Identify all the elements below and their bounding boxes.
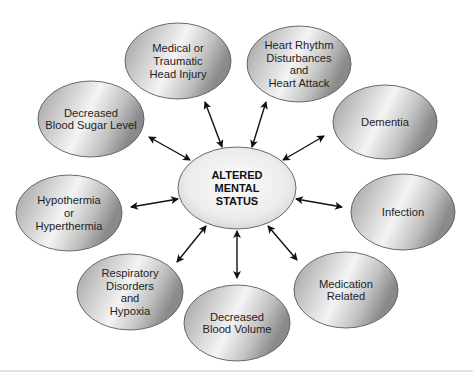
label-line: or — [64, 207, 74, 219]
label-line: Related — [327, 290, 366, 302]
node-medication-related: MedicationRelated — [294, 252, 398, 328]
label-line: Medication — [319, 278, 373, 290]
node-heart-rhythm: Heart RhythmDisturbancesandHeart Attack — [247, 26, 351, 102]
label-line: Blood Sugar Level — [45, 119, 136, 131]
double-arrow-respiratory-hypoxia — [177, 226, 206, 262]
label-line: Heart Rhythm — [264, 39, 333, 51]
label-line: Traumatic — [153, 55, 203, 67]
double-arrow-medication-related — [268, 226, 297, 260]
label-line: Hyperthermia — [35, 220, 103, 232]
node-label: Medical orTraumaticHead Injury — [149, 42, 207, 79]
node-respiratory-hypoxia: RespiratoryDisordersandHypoxia — [77, 254, 183, 330]
label-line: Medical or — [152, 42, 204, 54]
label-line: Hypothermia — [37, 194, 101, 206]
label-line: Disturbances — [266, 52, 332, 64]
label-line: Decreased — [64, 107, 118, 119]
double-arrow-heart-rhythm — [252, 102, 266, 147]
node-label: Infection — [382, 206, 424, 218]
double-arrow-infection — [296, 199, 342, 207]
center-label: ALTEREDMENTALSTATUS — [211, 169, 262, 206]
label-line: STATUS — [216, 195, 258, 207]
node-decreased-blood-sugar: DecreasedBlood Sugar Level — [38, 81, 144, 157]
label-line: Head Injury — [149, 68, 207, 80]
double-arrow-dementia — [283, 136, 324, 160]
double-arrow-medical-head-injury — [205, 102, 222, 147]
label-line: Disorders — [106, 280, 154, 292]
node-decreased-blood-volume: DecreasedBlood Volume — [184, 285, 290, 361]
label-line: and — [290, 64, 309, 76]
node-label: MedicationRelated — [319, 278, 373, 303]
label-line: MENTAL — [214, 182, 259, 194]
label-line: Infection — [382, 206, 424, 218]
bottom-rule — [0, 370, 473, 372]
label-line: Hypoxia — [110, 305, 151, 317]
label-line: Decreased — [210, 311, 264, 323]
node-label: DecreasedBlood Volume — [202, 311, 271, 336]
node-dementia: Dementia — [333, 85, 437, 159]
label-line: ALTERED — [211, 169, 262, 181]
label-line: and — [121, 292, 140, 304]
label-line: Respiratory — [101, 267, 159, 279]
label-line: Dementia — [361, 116, 410, 128]
node-label: Dementia — [361, 116, 410, 128]
label-line: Heart Attack — [269, 77, 330, 89]
double-arrow-decreased-blood-sugar — [149, 137, 190, 160]
center-node: ALTEREDMENTALSTATUS — [178, 147, 296, 229]
node-medical-head-injury: Medical orTraumaticHead Injury — [125, 23, 231, 99]
altered-mental-status-diagram: Medical orTraumaticHead InjuryHeart Rhyt… — [0, 0, 473, 376]
double-arrow-hypothermia-hyperthermia — [131, 199, 178, 207]
label-line: Blood Volume — [202, 323, 271, 335]
node-hypothermia-hyperthermia: HypothermiaorHyperthermia — [16, 175, 122, 251]
node-infection: Infection — [351, 174, 455, 250]
